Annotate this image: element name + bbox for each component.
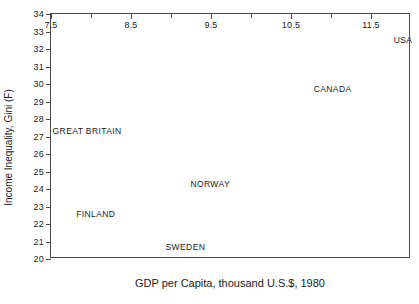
y-tick-label: 24: [34, 185, 44, 194]
x-axis-title: GDP per Capita, thousand U.S.$, 1980: [50, 277, 410, 289]
data-point-label: GREAT BRITAIN: [53, 127, 122, 136]
y-axis-title-text: Income Inequality, Gini (F): [3, 89, 14, 206]
y-tick-mark: [46, 137, 51, 138]
y-tick-label: 20: [34, 255, 44, 264]
y-tick-mark: [46, 207, 51, 208]
x-tick-mark: [211, 14, 212, 19]
y-tick-label: 33: [34, 27, 44, 36]
x-tick-mark: [291, 14, 292, 19]
y-tick-mark: [46, 259, 51, 260]
y-tick-label: 31: [34, 62, 44, 71]
data-point-label: NORWAY: [190, 179, 230, 188]
y-tick-label: 26: [34, 150, 44, 159]
x-tick-label: 7.5: [44, 21, 57, 30]
y-tick-mark: [46, 224, 51, 225]
y-tick-mark: [46, 32, 51, 33]
x-tick-mark: [331, 14, 332, 18]
y-tick-mark: [46, 67, 51, 68]
y-tick-mark: [46, 84, 51, 85]
x-tick-label: 11.5: [362, 21, 380, 30]
x-tick-mark: [171, 14, 172, 18]
x-tick-mark: [51, 14, 52, 19]
y-tick-mark: [46, 172, 51, 173]
y-tick-mark: [46, 102, 51, 103]
y-tick-label: 22: [34, 220, 44, 229]
x-tick-mark: [91, 14, 92, 18]
y-tick-label: 32: [34, 45, 44, 54]
x-tick-mark: [371, 14, 372, 19]
y-axis-title: Income Inequality, Gini (F): [0, 0, 16, 304]
x-tick-mark: [131, 14, 132, 19]
y-tick-mark: [46, 242, 51, 243]
y-tick-label: 34: [34, 10, 44, 19]
y-tick-mark: [46, 189, 51, 190]
x-tick-label: 10.5: [282, 21, 300, 30]
y-tick-label: 21: [34, 237, 44, 246]
data-point-label: FINLAND: [76, 209, 115, 218]
y-tick-label: 29: [34, 97, 44, 106]
data-point-label: SWEDEN: [166, 242, 206, 251]
y-tick-mark: [46, 49, 51, 50]
x-tick-label: 9.5: [204, 21, 217, 30]
plot-area: 202122232425262728293031323334 7.58.59.5…: [50, 13, 410, 258]
scatter-chart: Income Inequality, Gini (F) 202122232425…: [0, 0, 419, 304]
y-tick-label: 27: [34, 132, 44, 141]
y-tick-label: 23: [34, 202, 44, 211]
data-point-label: CANADA: [314, 85, 352, 94]
x-tick-label: 8.5: [124, 21, 137, 30]
y-tick-mark: [46, 119, 51, 120]
y-tick-label: 30: [34, 80, 44, 89]
data-point-label: USA: [394, 36, 413, 45]
x-tick-mark: [251, 14, 252, 18]
y-tick-mark: [46, 154, 51, 155]
y-tick-label: 25: [34, 167, 44, 176]
y-tick-label: 28: [34, 115, 44, 124]
